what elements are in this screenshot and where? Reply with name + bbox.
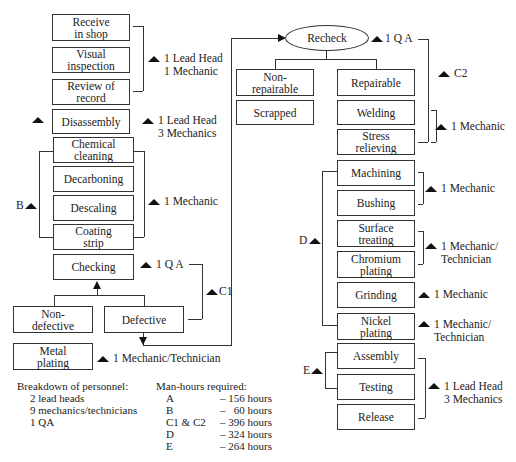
triangle-icon (25, 203, 37, 209)
label-checking-staff: 1 Q A (140, 258, 183, 271)
bracket-e-top (325, 352, 337, 353)
label-d: D (299, 234, 325, 247)
personnel-title: Breakdown of personnel: (17, 380, 128, 393)
box-grinding: Grinding (337, 282, 415, 308)
label-c2: C2 (438, 67, 467, 80)
loop-top (231, 38, 283, 39)
triangle-icon (438, 71, 450, 77)
box-coating-strip: Coating strip (53, 224, 134, 250)
bracket-c1-bot (188, 319, 202, 320)
surface-staff-text: 1 Mechanic/ Technician (441, 240, 498, 265)
manhours-value: – 60 hours (220, 404, 272, 417)
box-descaling: Descaling (53, 195, 134, 221)
box-visual-inspection: Visual inspection (52, 47, 130, 73)
box-disassembly: Disassembly (52, 109, 130, 134)
triangle-icon (425, 243, 437, 249)
triangle-icon (371, 36, 383, 42)
bracket-mach-bot (418, 204, 423, 205)
box-assembly: Assembly (337, 343, 415, 369)
box-surface-treating: Surface treating (337, 220, 415, 247)
manhours-title: Man-hours required: (156, 380, 247, 393)
box-welding: Welding (337, 100, 415, 125)
bracket-a-b (133, 91, 143, 92)
triangle-icon (428, 383, 440, 389)
box-testing: Testing (337, 374, 415, 400)
split-v (97, 288, 98, 295)
split-l (54, 295, 55, 306)
bracket-mach-v (423, 172, 424, 204)
label-metal-plating-staff: 1 Mechanic/Technician (97, 352, 220, 365)
b-text: B (16, 199, 24, 211)
label-b-staff: 1 Mechanic (148, 195, 218, 208)
nickel-staff-text: 1 Mechanic/ Technician (434, 318, 491, 343)
bracket-c1-v (202, 264, 203, 319)
bracket-c2-top (418, 39, 428, 40)
bracket-a-v (143, 26, 144, 91)
personnel-item: 1 QA (30, 416, 54, 429)
bracket-surf-bot (418, 264, 423, 265)
manhours-group: C1 & C2 (166, 416, 206, 429)
triangle-icon (309, 238, 321, 244)
bracket-asm-bot (418, 418, 425, 419)
bracket-b-left-b (39, 237, 53, 238)
label-welding-staff: 1 Mechanic (435, 120, 505, 133)
box-chemical-cleaning: Chemical cleaning (53, 137, 134, 163)
label-machining-staff: 1 Mechanic (425, 182, 495, 195)
triangle-icon (418, 292, 430, 298)
personnel-item: 9 mechanics/technicians (30, 404, 137, 417)
recheck-split-l (275, 59, 276, 69)
d-text: D (299, 234, 307, 246)
metal-plating-staff-text: 1 Mechanic/Technician (113, 352, 220, 364)
triangle-icon (435, 124, 447, 130)
manhours-value: – 396 hours (220, 416, 272, 429)
manhours-group: E (166, 440, 173, 453)
label-b: B (16, 199, 41, 212)
welding-staff-text: 1 Mechanic (451, 120, 505, 132)
box-nickel-plating: Nickel plating (337, 313, 415, 340)
bracket-asm-v (425, 358, 426, 418)
triangle-icon (148, 199, 160, 205)
disassembly-staff-text: 1 Lead Head 3 Mechanics (158, 114, 217, 139)
label-c1: C1 (206, 285, 232, 298)
triangle-icon (140, 262, 152, 268)
manhours-group: D (166, 428, 174, 441)
label-e: E (303, 364, 327, 377)
manhours-value: – 156 hours (220, 392, 272, 405)
box-receive-in-shop: Receive in shop (52, 14, 130, 41)
recheck-staff-text: 1 Q A (385, 32, 412, 44)
label-grinding-staff: 1 Mechanic (418, 288, 488, 301)
triangle-icon (425, 186, 437, 192)
assembly-staff-text: 1 Lead Head 3 Mechanics (444, 380, 503, 405)
bracket-e-bot (325, 388, 337, 389)
bracket-a (133, 26, 143, 27)
bracket-d-v (322, 171, 323, 326)
e-text: E (303, 364, 310, 376)
loop-h (143, 345, 232, 346)
recheck-split-r (376, 59, 377, 69)
split-r (144, 295, 145, 306)
bracket-weld-bot (431, 142, 436, 143)
label-recheck-staff: 1 Q A (371, 32, 412, 45)
box-stress-relieving: Stress relieving (337, 129, 415, 155)
bracket-asm-top (418, 358, 425, 359)
manhours-group: B (166, 404, 173, 417)
manhours-group: A (166, 392, 174, 405)
arrow-down-icon (139, 337, 147, 345)
triangle-icon (311, 368, 323, 374)
bracket-b-right-b (134, 237, 144, 238)
bracket-c2-v (428, 39, 429, 142)
manhours-value: – 324 hours (220, 428, 272, 441)
label-disassembly-staff: 1 Lead Head 3 Mechanics (142, 114, 217, 139)
box-chromium-plating: Chromium plating (337, 251, 415, 278)
bracket-d-top (322, 171, 337, 172)
box-checking: Checking (53, 254, 134, 280)
grinding-staff-text: 1 Mechanic (434, 288, 488, 300)
loop-v (231, 38, 232, 346)
b-staff-text: 1 Mechanic (164, 195, 218, 207)
bracket-b-right (134, 151, 144, 152)
checking-staff-text: 1 Q A (156, 258, 183, 270)
box-scrapped: Scrapped (236, 100, 314, 125)
box-metal-plating: Metal plating (13, 343, 93, 370)
personnel-item: 2 lead heads (30, 392, 84, 405)
box-repairable: Repairable (337, 69, 415, 96)
